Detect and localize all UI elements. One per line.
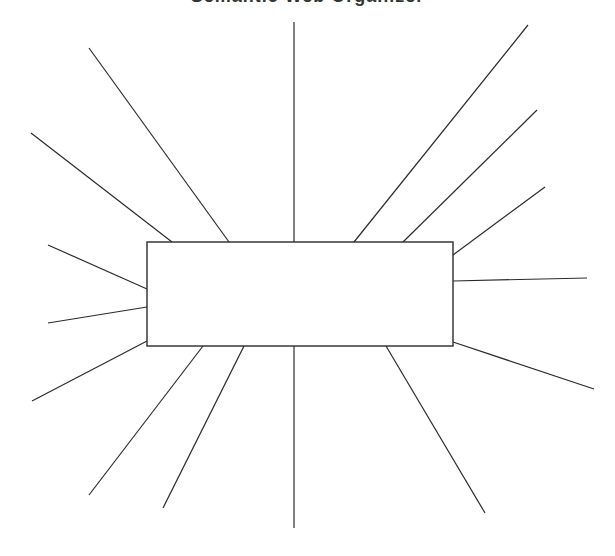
spoke-line-right-lower [453, 342, 594, 389]
spoke-line-bottom-right [386, 346, 485, 513]
spoke-line-left-top [48, 245, 147, 289]
spoke-line-bottom-left-outer [89, 346, 203, 495]
spoke-line-top-left-outer [89, 48, 229, 242]
spoke-line-top-right-outer [354, 25, 528, 242]
spoke-line-left-upper [31, 133, 172, 242]
spider-map-canvas [0, 0, 615, 556]
spoke-line-right-upper [453, 187, 545, 255]
center-topic-box[interactable] [147, 242, 453, 346]
spoke-line-right-middle [453, 278, 587, 281]
spoke-line-bottom-left-inner [163, 346, 244, 508]
spoke-line-top-right-middle [403, 110, 537, 242]
spoke-line-left-lower [32, 341, 147, 401]
spoke-line-left-middle [48, 307, 147, 323]
